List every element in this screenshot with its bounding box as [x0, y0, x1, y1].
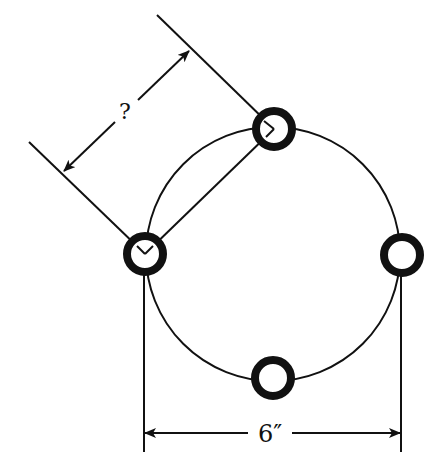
- upper-extension-line: [157, 15, 270, 125]
- bolt-circle: [146, 127, 400, 381]
- bolt-circle-diagram: ? 6″: [0, 0, 441, 466]
- diameter-dimension-label: 6″: [258, 420, 282, 448]
- lower-extension-line: [29, 142, 141, 250]
- unknown-dimension-label: ?: [119, 99, 131, 124]
- chord-line: [145, 129, 274, 254]
- hole-bottom: [255, 360, 291, 396]
- chord-dimension-arrow-upper: [138, 51, 189, 100]
- hole-right: [384, 237, 420, 273]
- chord-dimension-arrow-lower: [64, 122, 115, 171]
